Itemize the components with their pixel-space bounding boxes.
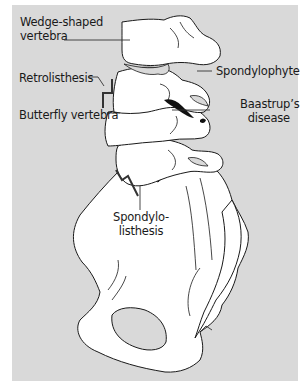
label-retrolisthesis: Retrolisthesis [19,71,93,85]
vertebra-l2 [122,16,220,66]
lumbosacral-spine-illustration [0,0,307,387]
retrolisthesis-step-marker [103,79,112,108]
label-baastrups-disease: Baastrup’s disease [240,97,290,125]
label-spondylolisthesis: Spondylo- listhesis [108,210,174,238]
label-spondylophyte: Spondylophyte [216,64,300,78]
label-wedge-shaped-vertebra: Wedge-shaped vertebra [20,15,103,43]
label-butterfly-vertebra: Butterfly vertebra [19,108,118,122]
